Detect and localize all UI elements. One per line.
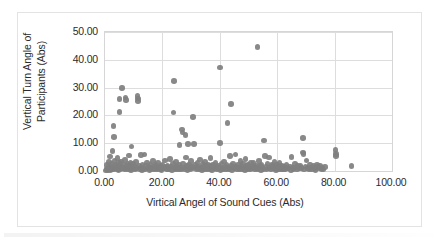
data-point: [117, 96, 123, 102]
data-point: [255, 44, 261, 50]
data-point: [123, 97, 129, 103]
data-point: [110, 148, 116, 154]
y-tick-label: 20.00: [52, 108, 98, 120]
data-point: [190, 114, 196, 120]
data-point: [322, 164, 328, 170]
plot-area: [104, 31, 393, 172]
scatter-points: [105, 32, 392, 171]
data-point: [183, 132, 189, 138]
data-point: [117, 109, 123, 115]
data-point: [333, 153, 339, 159]
y-tick-label: 40.00: [52, 53, 98, 65]
page-edge-artifact: [4, 233, 434, 237]
data-point: [300, 135, 306, 141]
data-point: [228, 101, 234, 107]
x-tick-label: 100.00: [363, 176, 419, 188]
x-tick-label: 40.00: [191, 176, 247, 188]
y-axis-tick-labels: 0.0010.0020.0030.0040.0050.00: [50, 31, 98, 172]
x-tick-label: 80.00: [306, 176, 362, 188]
data-point: [171, 110, 177, 116]
data-point: [126, 153, 132, 159]
data-point: [208, 155, 214, 161]
data-point: [261, 138, 267, 144]
x-tick-label: 20.00: [133, 176, 189, 188]
data-point: [185, 141, 191, 147]
data-point: [119, 85, 125, 91]
data-point: [233, 152, 239, 158]
x-tick-label: 60.00: [248, 176, 304, 188]
data-point: [289, 154, 295, 160]
data-point: [225, 120, 231, 126]
data-point: [129, 144, 135, 150]
x-axis-tick-labels: 0.0020.0040.0060.0080.00100.00: [104, 176, 393, 192]
y-tick-label: 50.00: [52, 25, 98, 37]
y-tick-label: 30.00: [52, 81, 98, 93]
x-tick-label: 0.00: [76, 176, 132, 188]
data-point: [191, 141, 197, 147]
data-point: [111, 134, 117, 140]
data-point: [349, 163, 355, 169]
data-point: [111, 123, 117, 129]
data-point: [142, 152, 148, 158]
x-axis-title: Virtical Angel of Sound Cues (Abs): [60, 196, 390, 208]
data-point: [171, 78, 177, 84]
data-point: [217, 140, 223, 146]
y-axis-title: Vertical Turn Angle of Participants (Abs…: [21, 17, 48, 147]
figure-root: Vertical Turn Angle of Participants (Abs…: [0, 0, 438, 242]
data-point: [135, 98, 141, 104]
data-point: [177, 142, 183, 148]
data-point: [266, 155, 272, 161]
data-point: [301, 151, 307, 157]
y-tick-label: 10.00: [52, 136, 98, 148]
data-point: [217, 65, 223, 71]
y-tick-label: 0.00: [52, 164, 98, 176]
